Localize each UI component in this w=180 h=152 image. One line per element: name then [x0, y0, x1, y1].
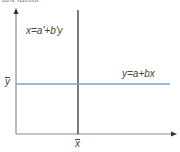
- label-x-on-y: x=a'+b'y: [26, 25, 63, 36]
- y-axis-arrow-icon: [14, 8, 19, 14]
- label-y-on-x: y=a+bx: [122, 68, 155, 79]
- y-bar-symbol: y: [5, 76, 10, 87]
- label-y-mean: y: [5, 76, 10, 87]
- x-axis-arrow-icon: [171, 132, 177, 137]
- label-x-mean: x: [75, 138, 80, 149]
- x-bar-symbol: x: [75, 138, 80, 149]
